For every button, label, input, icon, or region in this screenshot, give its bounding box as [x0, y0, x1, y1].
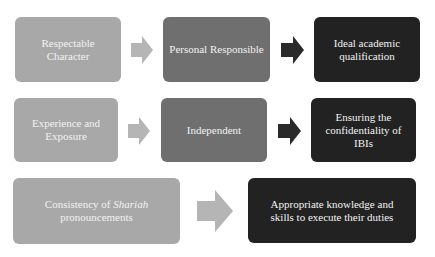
box-respectable-character: Respectable Character	[15, 17, 121, 82]
box-label: Appropriate knowledge and skills to exec…	[260, 198, 404, 224]
box-label: Personal Responsible	[169, 43, 263, 56]
box-ideal-academic-qualification: Ideal academic qualification	[314, 17, 420, 82]
right-arrow-icon	[278, 117, 301, 145]
box-experience-and-exposure: Experience and Exposure	[14, 98, 118, 162]
box-label: Ensuring the confidentiality of IBIs	[317, 111, 410, 150]
right-arrow-icon	[197, 190, 233, 232]
box-independent: Independent	[161, 98, 267, 162]
box-label: Experience and Exposure	[20, 117, 112, 143]
box-label: Consistency of Shariah pronouncements	[43, 198, 150, 224]
right-arrow-icon	[131, 36, 153, 64]
box-label: Ideal academic qualification	[320, 37, 414, 63]
box-appropriate-knowledge-skills: Appropriate knowledge and skills to exec…	[248, 178, 416, 243]
right-arrow-icon	[128, 117, 150, 145]
box-consistency-shariah: Consistency of Shariah pronouncements	[13, 178, 180, 244]
box-personal-responsible: Personal Responsible	[163, 17, 270, 82]
box-ensuring-confidentiality: Ensuring the confidentiality of IBIs	[311, 98, 416, 162]
box-label: Independent	[187, 124, 241, 137]
right-arrow-icon	[281, 36, 304, 64]
box-label: Respectable Character	[21, 37, 115, 63]
